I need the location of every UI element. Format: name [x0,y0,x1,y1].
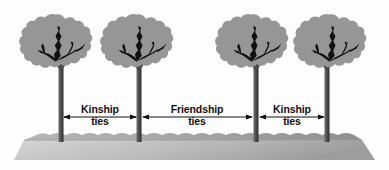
diagram-canvas: Kinship ties Friendship ties Kinship tie… [0,0,389,170]
tree-3 [215,14,288,142]
tree-1-trunk [59,62,64,142]
tree-2 [100,14,173,142]
relation-kinship-left-arrow [63,114,137,119]
ground-slab [14,133,375,160]
tree-4-trunk [325,62,330,142]
tree-2-trunk [137,62,142,142]
tree-4 [293,14,366,142]
tree-kinship-scene [0,0,389,170]
relation-arrows [63,114,325,119]
tree-3-trunk [254,62,259,142]
relation-kinship-right-arrow [259,114,325,119]
relation-friendship-middle-arrow [142,114,253,119]
ground-front-face [14,140,375,160]
tree-1 [19,14,92,142]
ground-top-surface [24,133,362,140]
